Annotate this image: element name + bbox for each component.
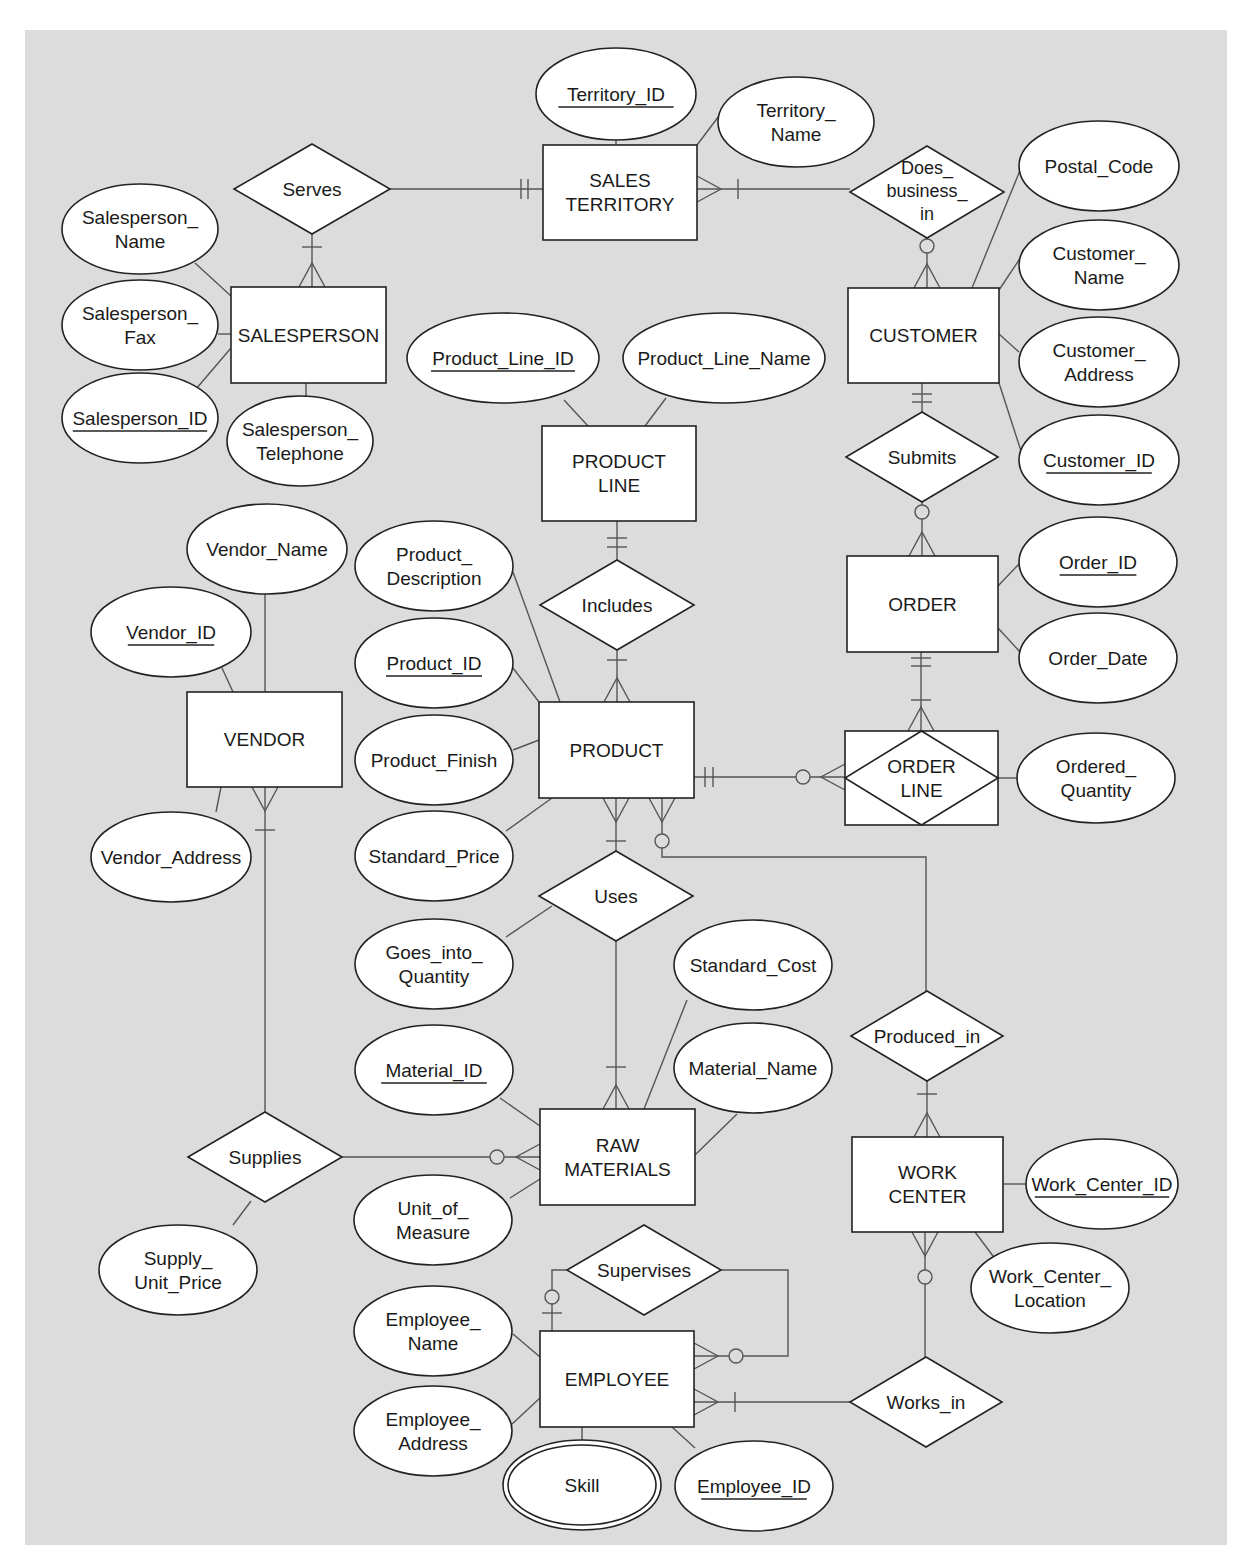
attribute-ellipse: [355, 521, 513, 611]
attribute-product-id: Product_ID: [355, 618, 513, 708]
attribute-supply-unit-price: Supply_Unit_Price: [99, 1225, 257, 1315]
diagram.attributes.2-label-line: Salesperson_: [82, 207, 199, 229]
diagram.relationships.8-label-line: Works_in: [887, 1392, 966, 1414]
entity-order-line: ORDERLINE: [845, 731, 998, 825]
entity-box: [543, 145, 697, 240]
attribute-customer-address: Customer_Address: [1019, 317, 1179, 407]
attribute-product-line-id: Product_Line_ID: [407, 313, 599, 403]
diagram.relationships.4-label-line: Uses: [594, 886, 637, 907]
diagram.attributes.31-label-line: Address: [398, 1433, 468, 1454]
entity-box: [852, 1137, 1003, 1232]
attribute-material-id: Material_ID: [355, 1025, 513, 1115]
diagram.attributes.3-label-line: Fax: [124, 327, 156, 348]
diagram.entities.9-label-line: WORK: [898, 1162, 957, 1183]
attribute-territory-name: Territory_Name: [718, 77, 874, 167]
diagram.attributes.29-label-line: Work_Center_: [989, 1266, 1112, 1288]
cardinality-zero-mark: [490, 1150, 504, 1164]
attribute-salesperson-telephone: Salesperson_Telephone: [227, 396, 373, 486]
attribute-employee-name: Employee_Name: [354, 1286, 512, 1376]
diagram.attributes.4-label-line: Salesperson_ID: [72, 408, 207, 430]
cardinality-zero-mark: [915, 505, 929, 519]
diagram.entities.7-label-line: ORDER: [887, 756, 956, 777]
diagram.attributes.30-label-line: Employee_: [385, 1309, 480, 1331]
diagram.attributes.27-label-line: Unit_Price: [134, 1272, 222, 1294]
diagram.attributes.19-label-line: Product_ID: [386, 653, 481, 675]
diagram.attributes.5-label-line: Telephone: [256, 443, 344, 464]
diagram.attributes.14-label-line: Quantity: [1061, 780, 1132, 801]
attribute-customer-name: Customer_Name: [1019, 220, 1179, 310]
diagram.attributes.28-label-line: Work_Center_ID: [1031, 1174, 1172, 1196]
diagram.attributes.1-label-line: Territory_: [756, 100, 836, 122]
entity-box: [540, 1109, 695, 1205]
diagram.attributes.22-label-line: Goes_into_: [385, 942, 483, 964]
diagram.entities.4-label-line: ORDER: [888, 594, 957, 615]
diagram.relationships.5-label-line: Produced_in: [874, 1026, 981, 1048]
entity-vendor: VENDOR: [187, 692, 342, 787]
diagram.entities.2-label-line: CUSTOMER: [869, 325, 977, 346]
diagram.relationships.0-label-line: Serves: [282, 179, 341, 200]
attribute-product-line-name: Product_Line_Name: [623, 313, 825, 403]
entity-order: ORDER: [847, 556, 998, 652]
diagram.attributes.15-label-line: Vendor_Name: [206, 539, 327, 561]
entity-box: [542, 426, 696, 521]
attribute-ellipse: [354, 1286, 512, 1376]
diagram.attributes.12-label-line: Order_ID: [1059, 552, 1137, 574]
diagram.entities.9-label-line: CENTER: [888, 1186, 966, 1207]
attribute-ellipse: [1019, 220, 1179, 310]
diagram.entities.1-label-line: SALESPERSON: [238, 325, 380, 346]
cardinality-zero-mark: [796, 770, 810, 784]
attribute-vendor-name: Vendor_Name: [187, 504, 347, 594]
attribute-ellipse: [227, 396, 373, 486]
diagram.entities.3-label-line: PRODUCT: [572, 451, 666, 472]
attribute-vendor-id: Vendor_ID: [91, 587, 251, 677]
diagram.attributes.26-label-line: Measure: [396, 1222, 470, 1243]
attribute-territory-id: Territory_ID: [536, 48, 696, 140]
attribute-ellipse: [1019, 317, 1179, 407]
attribute-ellipse: [99, 1225, 257, 1315]
diagram.attributes.10-label-line: Product_Line_ID: [432, 348, 574, 370]
diagram.entities.6-label-line: PRODUCT: [570, 740, 664, 761]
diagram.attributes.18-label-line: Product_: [396, 544, 472, 566]
attribute-salesperson-fax: Salesperson_Fax: [62, 280, 218, 370]
attribute-standard-cost: Standard_Cost: [674, 920, 832, 1010]
attribute-ellipse: [62, 184, 218, 274]
attribute-material-name: Material_Name: [674, 1023, 832, 1113]
attribute-employee-address: Employee_Address: [354, 1386, 512, 1476]
entity-product-line: PRODUCTLINE: [542, 426, 696, 521]
diagram.attributes.17-label-line: Vendor_Address: [101, 847, 242, 869]
diagram.attributes.29-label-line: Location: [1014, 1290, 1086, 1311]
entity-customer: CUSTOMER: [848, 288, 999, 383]
diagram.entities.8-label-line: RAW: [596, 1135, 640, 1156]
diagram.entities.5-label-line: VENDOR: [224, 729, 305, 750]
diagram.relationships.3-label-line: Includes: [582, 595, 653, 616]
cardinality-zero-mark: [920, 239, 934, 253]
attribute-ellipse: [971, 1243, 1129, 1333]
er-diagram: SALESTERRITORYSALESPERSONCUSTOMERPRODUCT…: [0, 0, 1246, 1568]
attribute-goes-into-quantity: Goes_into_Quantity: [355, 919, 513, 1009]
diagram.entities.8-label-line: MATERIALS: [564, 1159, 670, 1180]
diagram.attributes.22-label-line: Quantity: [399, 966, 470, 987]
attribute-employee-id: Employee_ID: [675, 1441, 833, 1531]
diagram.attributes.26-label-line: Unit_of_: [398, 1198, 469, 1220]
diagram.attributes.30-label-line: Name: [408, 1333, 459, 1354]
diagram.entities.3-label-line: LINE: [598, 475, 640, 496]
attribute-standard-price: Standard_Price: [355, 811, 513, 901]
attribute-product-finish: Product_Finish: [355, 715, 513, 805]
diagram.attributes.14-label-line: Ordered_: [1056, 756, 1137, 778]
diagram.attributes.31-label-line: Employee_: [385, 1409, 480, 1431]
diagram.attributes.21-label-line: Standard_Price: [369, 846, 500, 868]
diagram.entities.0-label-line: SALES: [589, 170, 650, 191]
diagram.relationships.7-label-line: Supervises: [597, 1260, 691, 1281]
attribute-ellipse: [355, 919, 513, 1009]
diagram.relationships.6-label-line: Supplies: [229, 1147, 302, 1168]
entity-raw-materials: RAWMATERIALS: [540, 1109, 695, 1205]
attribute-work-center-location: Work_Center_Location: [971, 1243, 1129, 1333]
attribute-ordered-quantity: Ordered_Quantity: [1017, 733, 1175, 823]
cardinality-zero-mark: [918, 1270, 932, 1284]
diagram.attributes.23-label-line: Standard_Cost: [690, 955, 817, 977]
diagram.attributes.11-label-line: Product_Line_Name: [637, 348, 810, 370]
diagram.attributes.27-label-line: Supply_: [144, 1248, 213, 1270]
cardinality-zero-mark: [545, 1290, 559, 1304]
diagram.attributes.24-label-line: Material_ID: [385, 1060, 482, 1082]
attribute-customer-id: Customer_ID: [1019, 415, 1179, 505]
